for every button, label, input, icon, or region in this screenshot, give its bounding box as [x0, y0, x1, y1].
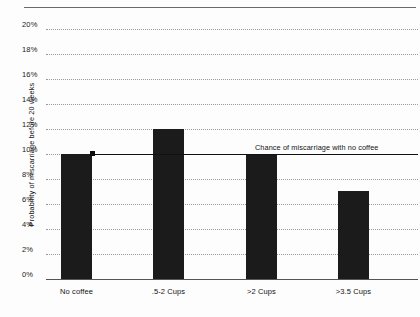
miscarriage-coffee-bar-chart: 20% 18% 16% 14% 12% 10% 8% 6% 4% 2% 0% C… — [0, 0, 420, 317]
bar-over-2-cups — [246, 154, 277, 279]
bar-half-to-2-cups — [153, 129, 184, 279]
x-axis-line — [46, 279, 418, 280]
gridline-20 — [46, 29, 418, 30]
gridline-14 — [46, 104, 418, 105]
gridline-8 — [46, 179, 418, 180]
reference-line-marker — [90, 151, 95, 156]
reference-line-no-coffee — [92, 154, 418, 155]
ytick-label-20: 20% — [22, 21, 52, 29]
bar-no-coffee — [61, 154, 92, 279]
xtick-label-no-coffee: No coffee — [36, 287, 117, 296]
gridline-12 — [46, 129, 418, 130]
gridline-16 — [46, 79, 418, 80]
xtick-label-over-3-5-cups: >3.5 Cups — [313, 287, 394, 296]
reference-line-label: Chance of miscarriage with no coffee — [255, 143, 379, 152]
xtick-label-over-2-cups: >2 Cups — [221, 287, 302, 296]
ytick-label-0: 0% — [22, 271, 52, 279]
plot-area: 20% 18% 16% 14% 12% 10% 8% 6% 4% 2% 0% C… — [0, 0, 420, 317]
gridline-18 — [46, 54, 418, 55]
bar-over-3-5-cups — [338, 191, 369, 279]
xtick-label-half-to-2-cups: .5-2 Cups — [128, 287, 209, 296]
y-axis-title: Probability of miscarriage before 20 wee… — [27, 40, 36, 270]
